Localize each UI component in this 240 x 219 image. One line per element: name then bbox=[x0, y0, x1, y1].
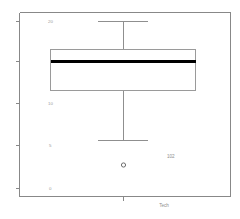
outlier-point[interactable] bbox=[121, 163, 125, 167]
y-tick-label-10: 10 bbox=[48, 101, 53, 106]
y-axis-tick-labels: 20 10 5 0 bbox=[48, 19, 53, 191]
x-axis-title: Tech bbox=[159, 203, 169, 208]
outlier-annotation-label: 102 bbox=[167, 154, 175, 159]
y-tick-label-0: 0 bbox=[49, 186, 52, 191]
y-axis-ticks bbox=[16, 22, 20, 189]
boxplot-canvas: 20 10 5 0 102 bbox=[0, 0, 240, 219]
y-tick-label-20: 20 bbox=[48, 19, 53, 24]
box-whisker-group-tech[interactable] bbox=[51, 22, 196, 168]
y-tick-label-5: 5 bbox=[49, 143, 52, 148]
boxplot-figure: 20 10 5 0 102 bbox=[0, 0, 240, 219]
interquartile-box bbox=[51, 50, 196, 91]
